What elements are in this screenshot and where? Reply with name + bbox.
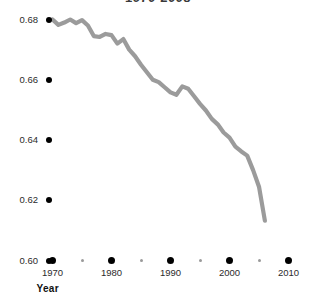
x-axis-tick-dot xyxy=(285,257,292,264)
y-axis-tick-dot xyxy=(46,137,52,143)
x-axis-minor-tick-dot xyxy=(199,259,202,262)
x-axis-tick-dot xyxy=(226,257,233,264)
x-axis-tick-dot xyxy=(49,257,56,264)
y-axis-tick-label: 0.66 xyxy=(20,74,39,86)
plot-area: 0.680.660.640.620.60 1970198019902000201… xyxy=(0,0,316,307)
y-axis-tick: 0.66 xyxy=(0,74,52,86)
x-axis-minor-tick-dot xyxy=(140,259,143,262)
y-axis-tick-label: 0.64 xyxy=(20,134,39,146)
y-axis-tick-dot xyxy=(46,17,52,23)
x-axis-tick-label: 2000 xyxy=(210,267,250,278)
x-axis-minor-tick-dot xyxy=(258,259,261,262)
y-axis-tick-dot xyxy=(46,77,52,83)
x-axis-tick-dot xyxy=(167,257,174,264)
data-line-path xyxy=(53,20,265,221)
y-axis-tick-label: 0.62 xyxy=(20,194,39,206)
y-axis-tick-label: 0.68 xyxy=(20,14,39,26)
x-axis-minor-tick-dot xyxy=(81,259,84,262)
y-axis-tick-label: 0.60 xyxy=(20,255,39,267)
y-axis-tick: 0.68 xyxy=(0,14,52,26)
x-axis-tick-label: 1990 xyxy=(151,267,191,278)
x-axis-title: Year xyxy=(37,283,59,294)
x-axis-tick-label: 2010 xyxy=(269,267,309,278)
y-axis-tick-dot xyxy=(46,197,52,203)
x-axis-tick-label: 1980 xyxy=(92,267,132,278)
y-axis-title: Gini ratio xyxy=(2,198,16,268)
x-axis-tick-label: 1970 xyxy=(33,267,73,278)
y-axis-tick: 0.64 xyxy=(0,134,52,146)
x-axis-tick-dot xyxy=(108,257,115,264)
chart-figure: 1970-2008 0.680.660.640.620.60 197019801… xyxy=(0,0,316,307)
